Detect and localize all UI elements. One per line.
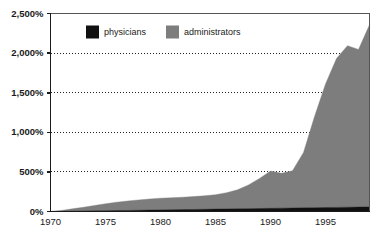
legend-swatch-physicians <box>86 26 99 39</box>
legend-swatch-administrators <box>166 26 179 39</box>
y-tick-label: 2,500% <box>11 8 44 19</box>
x-tick-label: 1995 <box>315 216 336 227</box>
chart-container: 0%500%1,000%1,500%2,000%2,500% 197019751… <box>0 0 383 244</box>
y-tick-label: 1,000% <box>11 126 44 137</box>
legend-label-physicians: physicians <box>104 27 147 37</box>
x-tick-label: 1985 <box>205 216 226 227</box>
x-tick-label: 1980 <box>150 216 171 227</box>
legend-label-administrators: administrators <box>184 27 241 37</box>
y-tick-label: 1,500% <box>11 87 44 98</box>
x-tick-label: 1970 <box>40 216 61 227</box>
y-tick-label: 500% <box>19 166 44 177</box>
x-tick-label: 1975 <box>95 216 116 227</box>
growth-area-chart: 0%500%1,000%1,500%2,000%2,500% 197019751… <box>0 0 383 244</box>
x-tick-label: 1990 <box>260 216 281 227</box>
y-tick-label: 2,000% <box>11 47 44 58</box>
